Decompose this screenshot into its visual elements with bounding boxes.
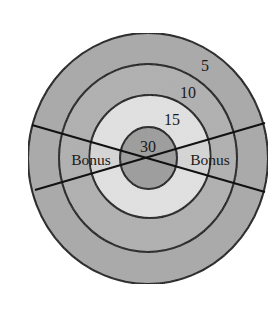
label-bonus-left: Bonus xyxy=(71,151,111,168)
target-diagram: 5 10 15 30 Bonus Bonus xyxy=(0,0,280,316)
label-15: 15 xyxy=(164,111,180,128)
label-bonus-right: Bonus xyxy=(190,151,230,168)
label-10: 10 xyxy=(180,84,196,101)
label-5: 5 xyxy=(201,57,209,74)
label-30: 30 xyxy=(140,138,156,155)
